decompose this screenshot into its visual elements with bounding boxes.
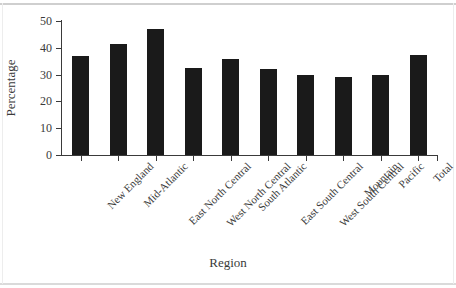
x-axis-tick: [81, 156, 82, 161]
bar: [372, 75, 389, 155]
y-axis-tick: [56, 48, 61, 49]
bar: [335, 77, 352, 155]
y-axis-title-wrapper: Percentage: [2, 20, 20, 156]
x-axis-tick: [118, 156, 119, 161]
x-axis-tick: [193, 156, 194, 161]
x-axis-title: Region: [0, 256, 456, 270]
y-axis-tick: [56, 128, 61, 129]
x-axis-tick: [231, 156, 232, 161]
x-axis-tick: [343, 156, 344, 161]
y-axis-tick: [56, 155, 61, 156]
bar: [72, 56, 89, 155]
y-axis-title: Percentage: [4, 59, 18, 116]
bar: [110, 44, 127, 155]
x-axis-tick: [268, 156, 269, 161]
bar: [147, 29, 164, 155]
y-axis-tick: [56, 75, 61, 76]
bar: [260, 69, 277, 155]
y-axis-tick: [56, 101, 61, 102]
figure-border-right: [453, 3, 454, 284]
x-axis-tick: [306, 156, 307, 161]
figure-border-top: [0, 3, 456, 5]
x-axis-tick: [381, 156, 382, 161]
plot-area: [62, 21, 437, 155]
bar: [185, 68, 202, 155]
bar: [222, 59, 239, 155]
bar: [410, 55, 427, 156]
bar: [297, 75, 314, 155]
x-axis-tick-label: Total: [431, 160, 455, 184]
x-axis-tick: [156, 156, 157, 161]
y-axis-tick: [56, 21, 61, 22]
bar-chart-figure: 01020304050 New EnglandMid-AtlanticEast …: [0, 0, 456, 288]
x-axis-tick: [437, 156, 438, 161]
figure-border-bottom: [0, 283, 456, 285]
